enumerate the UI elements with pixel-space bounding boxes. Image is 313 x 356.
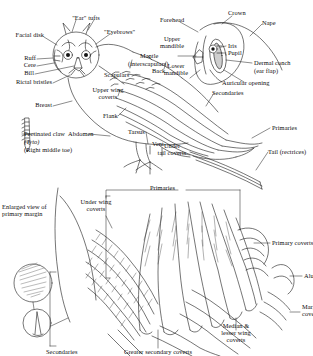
label-median-lesser-wing-coverts: Median & lesser wing coverts [208, 322, 264, 344]
label-auricular-opening: Auricular opening [222, 79, 270, 86]
label-under-wing-coverts: Under wing coverts [66, 198, 126, 212]
label-tail-rectrices: Tail (rectrices) [268, 148, 306, 155]
label-upper-wing-coverts: Upper wing coverts [84, 87, 132, 101]
label-dermal-conch: Dermal conch [254, 59, 291, 66]
label-rictal-bristles: Rictal bristles [0, 78, 52, 85]
label-facial-disk: Facial disk [0, 31, 44, 38]
label-ear-tufts: "Ear" tufts [57, 14, 115, 21]
label-pectinated-claw-toe: (Right middle toe) [24, 146, 72, 153]
label-forehead: Forehead [160, 16, 184, 23]
label-upper-mandible: Upper mandible [152, 36, 192, 50]
label-eyebrows: "Eyebrows" [104, 28, 135, 35]
label-enlarged-view: Enlarged view of primary margin [2, 203, 74, 218]
label-marginal-wing-coverts: Marginal wing coverts [302, 303, 313, 317]
label-secondaries-lower: Secondaries [46, 348, 77, 355]
anatomy-figure: "Ear" tufts "Eyebrows" Facial disk Ruff … [0, 0, 313, 356]
label-secondaries-upper: Secondaries [212, 89, 243, 96]
label-tarsus: Tarsus [128, 128, 145, 135]
label-pectinated-claw-genus: (Tyto) [24, 138, 39, 145]
label-breast: Breast [0, 101, 52, 108]
label-nape: Nape [262, 19, 276, 26]
label-crown: Crown [228, 9, 246, 16]
label-primaries-upper: Primaries [272, 124, 297, 131]
label-cere: Cere [0, 61, 36, 68]
label-abdomen: Abdomen [68, 130, 94, 137]
label-greater-secondary-coverts: Greater secondary coverts [124, 348, 192, 355]
label-dermal-conch-alt: (ear flap) [254, 67, 278, 74]
label-mantle: Mantle [140, 52, 158, 59]
label-pupil: Pupil [228, 49, 242, 56]
label-primary-coverts: Primary coverts [272, 239, 313, 246]
label-primaries-lower: Primaries [150, 184, 175, 191]
label-pectinated-claw: Pectinated claw [24, 130, 65, 137]
label-alula: Alula [304, 272, 313, 279]
label-under-tail-coverts: Under tail coverts [148, 143, 196, 157]
label-scapulars: Scapulars [104, 71, 129, 78]
label-flank: Flank [103, 112, 118, 119]
label-lower-mandible: Lower mandible [156, 63, 196, 77]
label-bill: Bill [0, 69, 34, 76]
